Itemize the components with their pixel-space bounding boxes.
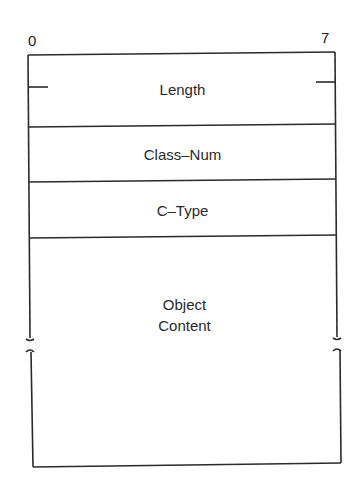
field-class-num: Class–Num — [29, 145, 336, 164]
break-mark-left-top — [26, 339, 34, 341]
field-c-type: C–Type — [29, 201, 336, 220]
bottom-border — [33, 463, 341, 467]
field-object-content-line2: Content — [31, 316, 338, 335]
field-object-content-line1: Object — [31, 295, 338, 314]
divider-c-type — [29, 235, 337, 238]
break-mark-right-top — [333, 338, 341, 340]
left-border-lower — [31, 352, 33, 467]
top-border — [28, 52, 335, 55]
object-format-frame — [0, 0, 358, 496]
break-mark-left-bottom — [26, 350, 34, 352]
divider-length — [28, 124, 336, 127]
right-border-lower — [340, 350, 341, 463]
field-length: Length — [29, 80, 336, 99]
divider-class-num — [29, 179, 336, 182]
